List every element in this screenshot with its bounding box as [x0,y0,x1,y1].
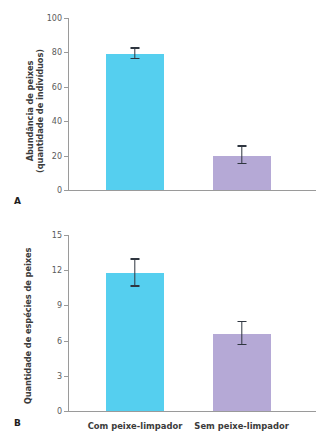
bar-com-peixe-limpador [106,54,164,190]
error-bar-cap-bottom [130,58,139,59]
y-axis-tick-label: 9 [57,301,62,310]
error-bar-cap-top [130,258,139,259]
y-axis-tick-label: 0 [57,186,62,195]
y-axis-tick-label: 15 [52,231,62,240]
y-axis-tick [64,156,68,157]
panel-b-y-axis-line [68,235,69,412]
panel-a-y-axis-title-line2: (quantidade de indivíduos) [35,49,45,173]
panel-a-x-axis-line [68,190,316,191]
y-axis-tick [64,376,68,377]
panel-a-label: A [14,196,21,206]
error-bar-cap-bottom [237,344,246,345]
error-bar-cap-bottom [237,163,246,164]
y-axis-tick [64,52,68,53]
y-axis-tick [64,121,68,122]
panel-a-plot-area: 020406080100 [68,18,316,191]
y-axis-tick [64,305,68,306]
panel-b-x-axis-line [68,411,316,412]
x-axis-category-label: Com peixe-limpador [88,421,183,431]
panel-a: Abundância de peixes (quantidade de indi… [0,0,323,215]
panel-b-label: B [14,418,21,428]
error-bar-cap-bottom [130,285,139,286]
bar-com-peixe-limpador [106,273,164,411]
y-axis-tick-label: 0 [57,407,62,416]
y-axis-tick-label: 6 [57,336,62,345]
error-bar-cap-top [130,47,139,48]
y-axis-tick [64,341,68,342]
x-axis-category-label: Sem peixe-limpador [194,421,288,431]
panel-b-y-axis-title: Quantidade de espécies de peixes [24,235,34,417]
error-bar-stem [241,145,242,164]
error-bar [236,145,248,164]
y-axis-tick [64,87,68,88]
error-bar-cap-top [237,145,246,146]
y-axis-tick-label: 60 [52,82,62,91]
error-bar [129,258,141,286]
error-bar [129,47,141,59]
y-axis-tick-label: 12 [52,266,62,275]
y-axis-tick [64,411,68,412]
y-axis-tick-label: 3 [57,371,62,380]
panel-b-y-axis-title-text: Quantidade de espécies de peixes [23,248,33,405]
error-bar [236,321,248,346]
panel-a-y-axis-title: Abundância de peixes (quantidade de indi… [26,22,45,200]
y-axis-tick [64,18,68,19]
panel-a-y-axis-line [68,18,69,191]
error-bar-cap-top [237,321,246,322]
error-bar-stem [241,321,242,346]
y-axis-tick [64,235,68,236]
error-bar-stem [134,258,135,286]
y-axis-tick [64,190,68,191]
y-axis-tick-label: 20 [52,151,62,160]
y-axis-tick-label: 40 [52,117,62,126]
panel-a-y-axis-title-line1: Abundância de peixes [25,61,35,162]
y-axis-tick-label: 80 [52,48,62,57]
y-axis-tick-label: 100 [47,14,62,23]
panel-b-plot-area: 03691215Com peixe-limpadorSem peixe-limp… [68,235,316,412]
y-axis-tick [64,270,68,271]
panel-b: Quantidade de espécies de peixes 0369121… [0,215,323,444]
